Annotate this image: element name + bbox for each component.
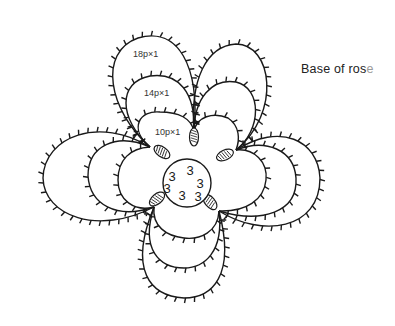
picot-mark — [289, 201, 292, 205]
caption: Base of rose — [301, 62, 374, 76]
picot-mark — [280, 132, 281, 137]
picot-mark — [246, 206, 247, 211]
picot-mark — [316, 161, 321, 162]
petal-left — [43, 132, 154, 221]
picot-mark — [212, 229, 215, 233]
picot-mark — [84, 166, 89, 168]
picot-mark — [254, 150, 258, 154]
picot-mark — [181, 51, 186, 53]
picot-mark — [274, 212, 275, 217]
picot-mark — [224, 238, 229, 239]
picot-mark — [174, 297, 176, 302]
picot-mark — [38, 172, 43, 174]
picot-mark — [116, 164, 120, 167]
picot-mark — [235, 215, 237, 220]
petal-upper-right — [193, 44, 266, 150]
picot-mark — [238, 39, 240, 44]
picot-mark — [317, 198, 321, 201]
picot-mark — [41, 162, 45, 165]
petal-loop — [194, 115, 238, 150]
picot-mark — [124, 117, 129, 118]
picot-mark — [135, 211, 136, 216]
picot-mark — [185, 268, 186, 273]
petal-loop — [154, 207, 219, 238]
picot-mark — [172, 236, 175, 240]
picot-mark — [146, 211, 147, 216]
picot-mark — [306, 143, 310, 146]
picot-mark — [160, 71, 162, 76]
picot-mark — [183, 238, 185, 243]
picot-mark — [204, 235, 205, 240]
picot-mark — [89, 220, 91, 225]
picot-mark — [251, 225, 253, 230]
picot-mark — [89, 195, 94, 197]
picot-mark — [219, 43, 220, 48]
picot-mark — [290, 223, 291, 228]
picot-mark — [135, 119, 139, 122]
picot-mark — [116, 129, 118, 134]
picot-mark — [96, 202, 100, 205]
picot-mark — [244, 82, 248, 85]
petal-bottom — [143, 207, 225, 298]
picot-mark — [195, 75, 199, 78]
picot-mark — [165, 295, 168, 299]
double-stitch-count: 3 — [186, 163, 193, 178]
picot-mark — [60, 138, 62, 143]
picot-mark — [125, 87, 129, 90]
picot-mark — [94, 147, 97, 151]
double-stitch-count: 3 — [163, 181, 170, 196]
join-oval — [152, 143, 172, 162]
petal-loop — [193, 44, 266, 150]
double-stitch-count: 3 — [178, 188, 185, 203]
picot-mark — [283, 208, 285, 213]
picot-mark — [183, 113, 186, 117]
picot-mark — [132, 79, 134, 84]
picot-mark — [133, 35, 134, 40]
picot-mark — [211, 289, 213, 294]
picot-mark — [223, 265, 228, 267]
picot-mark — [176, 43, 180, 46]
picot-mark — [46, 200, 51, 202]
picot-mark — [204, 57, 207, 61]
picot-mark — [124, 40, 126, 45]
picot-mark — [137, 214, 138, 219]
picot-mark — [203, 262, 205, 267]
picot-mark — [97, 127, 98, 132]
picot-mark — [312, 151, 317, 153]
picot-mark — [217, 282, 220, 286]
picot-mark — [141, 231, 146, 233]
picot-mark — [186, 60, 191, 61]
picot-mark — [221, 274, 225, 277]
picot-mark — [111, 56, 115, 59]
picot-mark — [271, 132, 272, 137]
picot-mark — [265, 104, 270, 106]
picot-mark — [319, 189, 324, 191]
picot-mark — [156, 291, 160, 295]
picot-mark — [105, 207, 108, 211]
picot-mark — [83, 176, 88, 177]
picot-mark — [200, 93, 203, 97]
picot-mark — [194, 96, 199, 97]
center-ring: 333333 — [163, 159, 211, 207]
picot-mark — [127, 127, 132, 129]
picot-mark — [294, 193, 298, 196]
picot-mark — [138, 249, 143, 250]
petal-loop — [88, 141, 154, 212]
picot-mark — [164, 107, 166, 112]
picot-mark — [132, 206, 135, 210]
picot-mark — [117, 112, 122, 113]
picot-mark — [108, 76, 113, 77]
stitch-label-group: 18p×114p×110p×1 — [133, 49, 180, 137]
picot-mark — [266, 177, 271, 178]
picot-mark — [215, 248, 219, 251]
join-oval — [190, 128, 199, 146]
picot-mark — [225, 112, 228, 116]
join-oval — [215, 147, 236, 164]
picot-mark — [194, 104, 199, 105]
picot-mark — [80, 219, 82, 224]
picot-mark — [267, 86, 272, 87]
picot-mark — [155, 107, 156, 112]
picot-mark — [233, 120, 238, 122]
picot-mark — [123, 202, 127, 205]
picot-mark — [233, 219, 236, 223]
